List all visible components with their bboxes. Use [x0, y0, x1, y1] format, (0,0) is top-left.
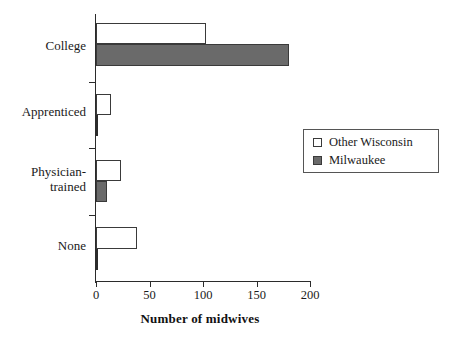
bar-apprenticed-other-wisconsin: [96, 94, 111, 115]
x-axis-tick-label: 150: [237, 288, 277, 302]
legend: Other Wisconsin Milwaukee: [303, 129, 439, 173]
bar-apprenticed-milwaukee: [96, 115, 98, 136]
legend-label-other-wisconsin: Other Wisconsin: [329, 135, 413, 149]
x-axis-tick-label: 200: [290, 288, 330, 302]
legend-swatch-open-square-icon: [313, 138, 322, 147]
x-axis-tick-label: 0: [76, 288, 116, 302]
x-axis-tick-label: 50: [130, 288, 170, 302]
legend-item-milwaukee: Milwaukee: [313, 152, 385, 168]
x-axis-tick: [150, 282, 151, 287]
x-axis-tick: [257, 282, 258, 287]
x-axis-tick: [203, 282, 204, 287]
bar-physician-trained-milwaukee: [96, 181, 107, 202]
y-axis-label-physician-trained: Physician- trained: [31, 164, 86, 194]
legend-item-other-wisconsin: Other Wisconsin: [313, 134, 413, 150]
legend-label-milwaukee: Milwaukee: [329, 153, 385, 167]
x-axis-tick: [96, 282, 97, 287]
bar-physician-trained-other-wisconsin: [96, 160, 121, 181]
y-axis-tick: [89, 148, 96, 149]
legend-swatch-filled-square-icon: [313, 156, 322, 165]
y-axis-tick: [89, 82, 96, 83]
bar-none-milwaukee: [96, 249, 98, 270]
y-axis-label-apprenticed: Apprenticed: [22, 104, 86, 119]
y-axis-label-none: None: [58, 238, 86, 253]
y-axis-tick: [89, 215, 96, 216]
bar-none-other-wisconsin: [96, 227, 137, 249]
x-axis-title: Number of midwives: [0, 311, 400, 327]
y-axis-label-college: College: [46, 38, 86, 53]
bar-chart: College Apprenticed Physician- trained N…: [0, 0, 455, 341]
x-axis-tick-label: 100: [183, 288, 223, 302]
x-axis-tick: [310, 282, 311, 287]
bar-college-milwaukee: [96, 44, 289, 66]
bar-college-other-wisconsin: [96, 23, 206, 44]
